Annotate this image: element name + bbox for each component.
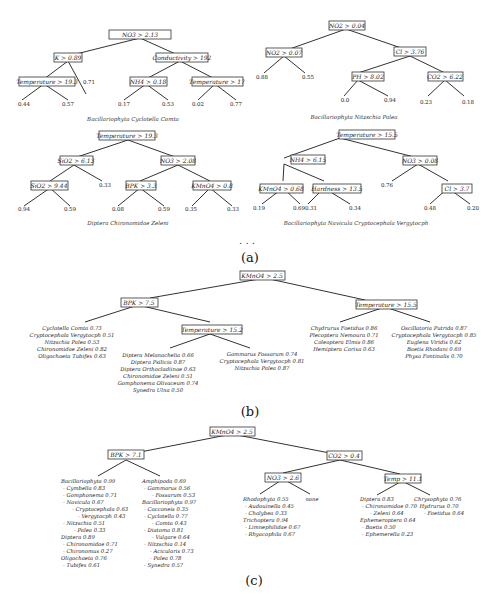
tree-node: KMnO4 > 2.5 [210, 427, 255, 436]
tree-a1: NO3 > 2.13 K > 0.89 Conductivity > 192 T… [16, 30, 245, 123]
leaf-value: 0.48 [424, 205, 437, 211]
svg-text:SiO2 > 6.13: SiO2 > 6.13 [58, 157, 95, 164]
svg-text:NO3 > 2.08: NO3 > 2.08 [159, 157, 196, 164]
tree-node: NH4 > 0.18 [129, 77, 167, 86]
tree-node: Temp > 11.1 [384, 474, 423, 483]
tree-node: BPK > 3.3 [124, 181, 156, 190]
svg-text:- Cyclotella 0.77: - Cyclotella 0.77 [144, 513, 188, 520]
leaf-value: 0.57 [62, 101, 75, 107]
tree-caption: Bacillariophyta Nitzschia Palea [309, 114, 397, 121]
svg-text:- Chironomidae 0.71: - Chironomidae 0.71 [63, 541, 118, 547]
svg-text:Ephemeroptera 0.64: Ephemeroptera 0.64 [359, 517, 416, 524]
svg-text:SiO2 > 9.44: SiO2 > 9.44 [31, 182, 68, 189]
tree-node: KMnO4 > 0.68 [257, 184, 304, 193]
svg-text:- Comta 0.43: - Comta 0.43 [152, 520, 187, 526]
svg-text:KMnO4 > 0.8: KMnO4 > 0.8 [190, 182, 233, 189]
svg-text:Bacillariophyta 0.97: Bacillariophyta 0.97 [141, 499, 197, 506]
tree-node: Temperature > 17 [189, 77, 245, 86]
svg-text:Cryptocephala Vergytocph 0.51: Cryptocephala Vergytocph 0.51 [30, 332, 115, 339]
ellipsis: . . . [239, 235, 255, 246]
tree-c: KMnO4 > 2.5 BPK > 7.1 CO2 > 0.4 NO3 > 2.… [60, 427, 464, 569]
svg-text:Trichoptera 0.94: Trichoptera 0.94 [243, 517, 288, 524]
tree-node: NO3 > 2.13 [109, 30, 171, 39]
tree-node: Conductivity > 192 [153, 53, 212, 62]
leaf-value: 0.02 [192, 101, 204, 107]
leaf-value: 0.08 [112, 206, 125, 212]
svg-text:Diptera Melanochelia 0.66: Diptera Melanochelia 0.66 [121, 352, 194, 359]
svg-text:Cryptocephala Vergytocph 0.85: Cryptocephala Vergytocph 0.85 [392, 332, 477, 339]
tree-node: Temperature > 15.5 [336, 130, 398, 139]
tree-node: Temperature > 15.2 [181, 325, 243, 334]
svg-text:NO3 > 2.6: NO3 > 2.6 [266, 474, 300, 481]
tree-node: Cl > 3.7 [442, 184, 472, 193]
svg-text:- Tubifex 0.61: - Tubifex 0.61 [63, 562, 100, 569]
svg-text:Oligochaeta Tubifex 0.63: Oligochaeta Tubifex 0.63 [38, 353, 106, 360]
svg-text:Diptera Orthocladiinae 0.63: Diptera Orthocladiinae 0.63 [119, 366, 196, 373]
leaf-value: 0.88 [256, 74, 269, 80]
svg-text:BPK > 7.1: BPK > 7.1 [109, 451, 141, 458]
svg-text:Gammarus Fossarum 0.74: Gammarus Fossarum 0.74 [227, 351, 298, 357]
leaf-none: none [305, 496, 318, 502]
svg-text:KMnO4 > 2.5: KMnO4 > 2.5 [210, 428, 253, 435]
svg-text:Euglena Viridis 0.62: Euglena Viridis 0.62 [406, 339, 462, 346]
svg-text:PH > 8.02: PH > 8.02 [351, 73, 384, 80]
svg-text:Temperature > 17: Temperature > 17 [189, 78, 245, 86]
leaf-group: Bacillariophyta 0.99 - Cymbella 0.83 - G… [60, 478, 129, 569]
svg-text:- Limnephilidae 0.67: - Limnephilidae 0.67 [245, 524, 301, 531]
svg-text:- Acicularis 0.73: - Acicularis 0.73 [150, 548, 194, 554]
svg-text:NO3 > 2.13: NO3 > 2.13 [121, 31, 158, 38]
leaf-group: Diptera Melanochelia 0.66 Diptera Psilic… [118, 352, 199, 394]
leaf-value: 0.23 [420, 99, 433, 105]
svg-text:- Zeleni 0.64: - Zeleni 0.64 [370, 510, 404, 516]
svg-text:- Palea 0.33: - Palea 0.33 [74, 527, 106, 533]
svg-text:Diptera 0.83: Diptera 0.83 [359, 496, 394, 503]
tree-node: KMnO4 > 0.8 [190, 181, 233, 190]
leaf-value: 0.59 [64, 206, 77, 212]
svg-text:Oscillatoria Putrida 0.87: Oscillatoria Putrida 0.87 [401, 325, 468, 331]
tree-node: SiO2 > 6.13 [58, 156, 95, 165]
tree-a4: Temperature > 15.5 NH4 > 6.15 NO3 > 0.08… [253, 130, 480, 227]
svg-text:NH4 > 0.18: NH4 > 0.18 [129, 78, 167, 85]
tree-b: KMnO4 > 2.5 BPK > 7.5 Temperature > 15.5… [30, 271, 477, 394]
leaf-value: 0.69 [293, 205, 306, 211]
svg-text:- Gammarus 0.56: - Gammarus 0.56 [144, 485, 191, 491]
leaf-value: 0.94 [384, 97, 397, 103]
tree-node: CO2 > 0.4 [327, 451, 362, 460]
tree-node: Temperature > 19.3 [96, 131, 158, 140]
svg-text:Cryptocephala Vergytocph 0.81: Cryptocephala Vergytocph 0.81 [220, 358, 305, 365]
svg-text:Diptera 0.89: Diptera 0.89 [60, 534, 95, 541]
svg-text:- Palea 0.78: - Palea 0.78 [150, 555, 182, 561]
svg-text:- Fossarum 0.53: - Fossarum 0.53 [152, 492, 196, 498]
svg-text:Plecoptera Nemoura 0.71: Plecoptera Nemoura 0.71 [308, 332, 378, 339]
svg-text:- Chironomidae 0.70: - Chironomidae 0.70 [362, 503, 417, 509]
svg-text:CO2 > 0.4: CO2 > 0.4 [328, 452, 360, 459]
svg-text:- Cocconeis 0.35: - Cocconeis 0.35 [144, 506, 189, 512]
svg-text:- Vulgare 0.64: - Vulgare 0.64 [152, 534, 190, 541]
leaf-value: 0.20 [467, 205, 480, 211]
svg-text:Nitzschia Palea 0.53: Nitzschia Palea 0.53 [44, 339, 100, 345]
leaf-group: Gammarus Fossarum 0.74 Cryptocephala Ver… [220, 351, 305, 371]
svg-text:Coleoptera Elmis 0.86: Coleoptera Elmis 0.86 [314, 339, 374, 346]
svg-text:NO2 > 0.07: NO2 > 0.07 [265, 49, 302, 56]
svg-text:Gomphonema Olivaceum 0.74: Gomphonema Olivaceum 0.74 [118, 380, 199, 387]
svg-text:Cyclotella Comta 0.73: Cyclotella Comta 0.73 [42, 325, 102, 332]
svg-text:- Chironomus 0.27: - Chironomus 0.27 [63, 548, 113, 554]
tree-node: NH4 > 6.15 [289, 155, 327, 164]
svg-text:- Baetis 0.50: - Baetis 0.50 [362, 524, 396, 530]
tree-caption: Bacillariophyta Cyclotella Comta [86, 116, 179, 123]
leaf-value: 0.35 [185, 206, 198, 212]
leaf-value: 0.31 [305, 205, 317, 211]
svg-text:Bacillariophyta 0.99: Bacillariophyta 0.99 [60, 478, 116, 485]
tree-node: Temperature > 19.3 [16, 77, 78, 86]
svg-text:Temp > 11.1: Temp > 11.1 [384, 475, 423, 483]
svg-text:Temperature > 15.5: Temperature > 15.5 [336, 131, 398, 139]
tree-node: Cl > 3.76 [394, 47, 426, 56]
tree-caption: Diptera Chironomidae Zeleni [86, 220, 169, 227]
svg-text:- Audouinella 0.45: - Audouinella 0.45 [245, 503, 295, 509]
svg-text:Physa Fontinalis 0.70: Physa Fontinalis 0.70 [404, 353, 463, 360]
svg-text:Cl > 3.76: Cl > 3.76 [396, 48, 425, 55]
svg-text:Temperature > 15.2: Temperature > 15.2 [181, 326, 243, 334]
figure-canvas: NO3 > 2.13 K > 0.89 Conductivity > 192 T… [0, 0, 496, 603]
leaf-value: 0.76 [381, 182, 394, 188]
tree-node: NO3 > 2.6 [265, 473, 301, 482]
